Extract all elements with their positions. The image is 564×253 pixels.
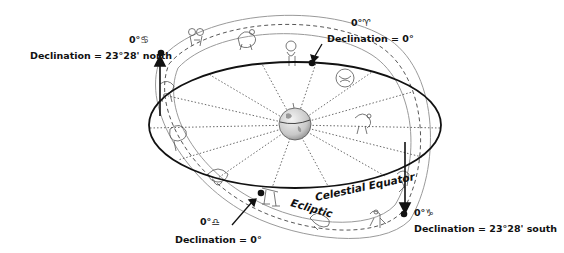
vernal-equinox-sign: 0°♈	[351, 17, 371, 28]
summer-solstice-sign: 0°♋	[129, 34, 149, 45]
autumnal-equinox-point	[258, 190, 265, 197]
vernal-equinox-point	[309, 60, 316, 67]
winter-solstice-sign: 0°♑	[414, 207, 434, 218]
celestial-sphere-diagram: Celestial Equator Ecliptic 0°♋ Declinati…	[0, 0, 564, 253]
winter-solstice-declination: Declination = 23°28' south	[414, 223, 557, 234]
autumnal-equinox-declination: Declination = 0°	[175, 234, 262, 245]
summer-solstice-declination: Declination = 23°28' north	[30, 50, 172, 61]
earth-globe	[279, 103, 311, 140]
diagram-graphic: Celestial Equator Ecliptic	[0, 0, 564, 253]
autumnal-equinox-sign: 0°♎	[200, 216, 220, 227]
vernal-equinox-declination: Declination = 0°	[327, 33, 414, 44]
winter-solstice-point	[401, 211, 408, 218]
equinox-arrows	[232, 44, 322, 225]
